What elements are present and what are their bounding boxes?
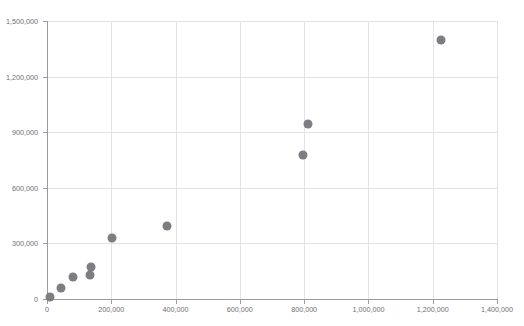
gridline-horizontal — [47, 77, 497, 78]
data-point[interactable] — [56, 283, 65, 292]
data-point[interactable] — [85, 270, 94, 279]
x-tick — [368, 299, 369, 304]
data-point[interactable] — [436, 36, 445, 45]
x-tick — [240, 299, 241, 304]
y-tick — [43, 21, 48, 22]
x-tick — [304, 299, 305, 304]
x-axis-label: 1,400,000 — [457, 305, 524, 314]
y-tick — [43, 132, 48, 133]
gridline-horizontal — [47, 132, 497, 133]
x-tick — [111, 299, 112, 304]
y-tick — [43, 77, 48, 78]
plot-area — [47, 21, 497, 299]
y-axis-label: 1,200,000 — [0, 72, 38, 81]
gridline-vertical — [111, 21, 112, 299]
y-axis-label: 1,500,000 — [0, 17, 38, 26]
data-point[interactable] — [299, 150, 308, 159]
y-axis-label: 0 — [0, 295, 38, 304]
y-tick — [43, 243, 48, 244]
data-point[interactable] — [107, 233, 116, 242]
gridline-horizontal — [47, 188, 497, 189]
data-point[interactable] — [45, 292, 54, 301]
y-axis-label: 600,000 — [0, 183, 38, 192]
x-tick — [433, 299, 434, 304]
data-point[interactable] — [304, 119, 313, 128]
gridline-vertical — [368, 21, 369, 299]
x-axis-line — [47, 299, 498, 300]
gridline-vertical — [240, 21, 241, 299]
gridline-horizontal — [47, 243, 497, 244]
data-point[interactable] — [68, 272, 77, 281]
data-point[interactable] — [162, 221, 171, 230]
data-point[interactable] — [87, 263, 96, 272]
gridline-vertical — [176, 21, 177, 299]
y-axis-label: 300,000 — [0, 239, 38, 248]
y-axis-line — [47, 21, 48, 300]
x-tick — [176, 299, 177, 304]
gridline-vertical — [433, 21, 434, 299]
gridline-vertical — [304, 21, 305, 299]
y-tick — [43, 188, 48, 189]
y-axis-label: 900,000 — [0, 128, 38, 137]
x-tick — [497, 299, 498, 304]
gridline-vertical — [497, 21, 498, 299]
gridline-horizontal — [47, 21, 497, 22]
scatter-chart: 0300,000600,000900,0001,200,0001,500,000… — [0, 0, 524, 326]
